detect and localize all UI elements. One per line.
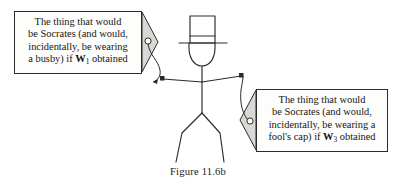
bubble-left-line-4: a busby) if W1 obtained (20, 53, 136, 68)
left-tail-knob (145, 38, 151, 44)
bubble-left-line-3: incidentally, be wearing (20, 41, 136, 53)
bubble-left-line-1: The thing that would (20, 16, 136, 28)
world-variable-w3: W (323, 131, 333, 142)
world-variable-w1: W (75, 53, 85, 64)
bubble-right-line-2: be Socrates (and would, (262, 106, 382, 118)
bubble-right-line-4: fool's cap) if W3 obtained (262, 131, 382, 146)
left-arm (163, 79, 202, 82)
head (189, 43, 215, 66)
left-bubble-tail (142, 12, 160, 84)
right-arm (202, 76, 241, 82)
figure-caption: Figure 11.6b (0, 166, 396, 177)
stick-figure (160, 16, 244, 162)
figure-container: The thing that would be Socrates (and wo… (0, 0, 396, 190)
speech-bubble-right: The thing that would be Socrates (and wo… (256, 89, 388, 152)
speech-bubble-left: The thing that would be Socrates (and wo… (14, 11, 142, 74)
bubble-right-line-3: incidentally, be wearing a (262, 119, 382, 131)
left-leg (176, 113, 202, 162)
right-bubble-tail (240, 76, 256, 150)
left-hand (160, 76, 165, 81)
bubble-left-line-2: be Socrates (and would, (20, 28, 136, 40)
bubble-right-line-1: The thing that would (262, 94, 382, 106)
right-hand (239, 73, 244, 78)
right-leg (202, 113, 224, 162)
right-tail-knob (247, 118, 253, 124)
top-hat-crown (190, 16, 215, 43)
